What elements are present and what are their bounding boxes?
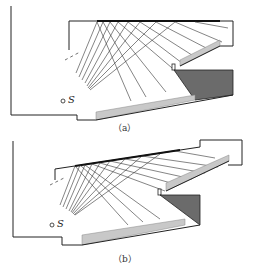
dashed-ray-a: [65, 52, 80, 60]
lower-seating-a: [96, 95, 195, 120]
panel-b-diagram: [0, 135, 255, 270]
source-label-a: S: [68, 94, 75, 105]
lower-seating-b: [82, 219, 185, 245]
hall-outline-b: [13, 141, 82, 245]
caption-a: （a）: [113, 121, 136, 134]
ceiling-box-b: [55, 140, 242, 180]
source-marker-b: [50, 223, 54, 227]
dark-block-a: [174, 70, 233, 100]
dashed-ray-b: [50, 177, 66, 185]
source-marker-a: [61, 99, 65, 103]
reflector-b: [75, 150, 180, 166]
upper-balcony-b: [166, 155, 229, 191]
upper-balcony-a: [180, 40, 220, 66]
panel-a-diagram: [0, 0, 255, 135]
hall-outline-a: [11, 6, 96, 120]
balcony-tip-b: [158, 189, 161, 195]
balcony-tip-a: [172, 64, 175, 70]
source-label-b: S: [57, 218, 64, 229]
caption-b: （b）: [113, 252, 137, 265]
